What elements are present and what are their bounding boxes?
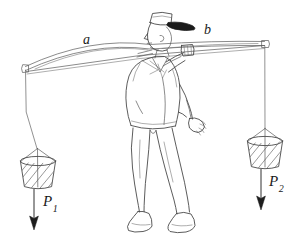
carrying-pole — [22, 41, 270, 75]
cap-brim — [167, 22, 195, 30]
free-arm — [179, 84, 207, 135]
force-subscript-p1: 1 — [53, 203, 58, 214]
force-subscript-p2: 2 — [279, 183, 284, 194]
belt-line — [131, 126, 176, 129]
label-force-p1: P1 — [43, 194, 57, 212]
open-hand — [189, 118, 205, 133]
force-arrow-left — [30, 189, 39, 230]
left-sling — [21, 149, 56, 188]
man-figure — [126, 12, 206, 232]
right-load-assembly — [241, 46, 291, 180]
rear-shoe — [127, 211, 152, 232]
force-arrow-right — [257, 169, 266, 210]
front-shoe — [168, 212, 195, 232]
label-segment-b: b — [204, 23, 211, 37]
force-symbol-p2: P — [269, 173, 278, 189]
cap — [150, 12, 195, 30]
left-load-assembly — [14, 70, 64, 200]
left-rope — [26, 70, 38, 149]
right-sling — [248, 129, 283, 168]
figure-container: a b P1 P2 — [0, 0, 298, 249]
force-symbol-p1: P — [43, 193, 52, 209]
legs — [127, 128, 195, 233]
jacket-pocket — [136, 101, 143, 114]
head — [144, 23, 171, 52]
label-segment-a: a — [83, 33, 90, 47]
label-force-p2: P2 — [269, 174, 283, 192]
